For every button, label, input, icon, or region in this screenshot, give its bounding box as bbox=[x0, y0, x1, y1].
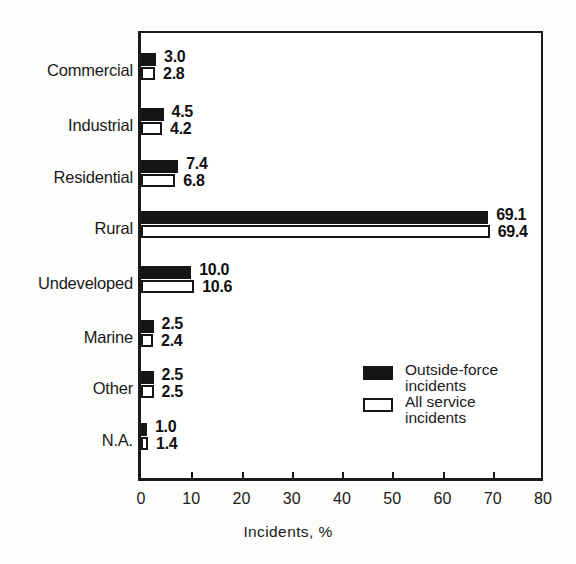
bar-value-other-outside-force: 2.5 bbox=[162, 366, 183, 384]
x-tick-label-70: 70 bbox=[484, 490, 502, 508]
bar-value-marine-all-service: 2.4 bbox=[161, 332, 182, 350]
x-tick-label-30: 30 bbox=[283, 490, 301, 508]
bar-value-undeveloped-all-service: 10.6 bbox=[202, 278, 232, 296]
bar-value-marine-outside-force: 2.5 bbox=[162, 315, 183, 333]
y-axis-category-labels: Commercial Industrial Residential Rural … bbox=[0, 0, 133, 564]
bar-residential-outside-force bbox=[141, 160, 178, 173]
category-label-industrial: Industrial bbox=[5, 116, 133, 135]
category-label-rural: Rural bbox=[5, 219, 133, 238]
x-tick-label-40: 40 bbox=[333, 490, 351, 508]
category-label-commercial: Commercial bbox=[5, 61, 133, 80]
bar-marine-outside-force bbox=[141, 320, 154, 333]
chart-figure: Commercial Industrial Residential Rural … bbox=[0, 0, 576, 564]
x-tick-label-60: 60 bbox=[434, 490, 452, 508]
bar-value-commercial-all-service: 2.8 bbox=[163, 65, 184, 83]
bar-rural-all-service bbox=[141, 225, 490, 238]
category-label-marine: Marine bbox=[5, 328, 133, 347]
x-tick-mark-10 bbox=[191, 472, 193, 481]
x-tick-label-80: 80 bbox=[534, 490, 552, 508]
category-label-other: Other bbox=[5, 379, 133, 398]
bar-industrial-all-service bbox=[141, 122, 162, 135]
x-tick-mark-50 bbox=[392, 472, 394, 481]
bar-other-all-service bbox=[141, 385, 154, 398]
bar-na-all-service bbox=[141, 437, 148, 450]
category-label-residential: Residential bbox=[5, 168, 133, 187]
bar-value-other-all-service: 2.5 bbox=[162, 383, 183, 401]
bar-value-na-all-service: 1.4 bbox=[156, 435, 177, 453]
x-tick-label-10: 10 bbox=[182, 490, 200, 508]
legend-item-outside-force: Outside-force incidents bbox=[363, 362, 538, 394]
bar-value-rural-outside-force: 69.1 bbox=[496, 206, 526, 224]
bar-rural-outside-force bbox=[141, 211, 488, 224]
bar-other-outside-force bbox=[141, 371, 154, 384]
x-tick-label-50: 50 bbox=[383, 490, 401, 508]
bar-residential-all-service bbox=[141, 174, 175, 187]
x-tick-mark-40 bbox=[342, 472, 344, 481]
legend-swatch-open-icon bbox=[363, 398, 393, 412]
x-tick-label-0: 0 bbox=[137, 490, 146, 508]
bar-value-industrial-all-service: 4.2 bbox=[170, 120, 191, 138]
bar-commercial-outside-force bbox=[141, 53, 156, 66]
bar-value-commercial-outside-force: 3.0 bbox=[164, 48, 185, 66]
bar-commercial-all-service bbox=[141, 67, 155, 80]
x-tick-mark-60 bbox=[443, 472, 445, 481]
bar-na-outside-force bbox=[141, 423, 147, 436]
legend-label-outside-force: Outside-force incidents bbox=[405, 362, 498, 394]
x-tick-mark-30 bbox=[292, 472, 294, 481]
x-tick-mark-70 bbox=[493, 472, 495, 481]
x-tick-label-20: 20 bbox=[233, 490, 251, 508]
bar-industrial-outside-force bbox=[141, 108, 164, 121]
legend-label-all-service: All service incidents bbox=[405, 394, 476, 426]
bar-value-industrial-outside-force: 4.5 bbox=[172, 103, 193, 121]
category-label-na: N.A. bbox=[5, 431, 133, 450]
legend-item-all-service: All service incidents bbox=[363, 394, 538, 426]
chart-legend: Outside-force incidents All service inci… bbox=[363, 362, 538, 426]
bar-value-residential-outside-force: 7.4 bbox=[186, 155, 207, 173]
x-axis: 01020304050607080 bbox=[138, 481, 543, 491]
bar-undeveloped-all-service bbox=[141, 280, 194, 293]
bar-marine-all-service bbox=[141, 334, 153, 347]
legend-swatch-filled-icon bbox=[363, 366, 393, 380]
x-tick-mark-20 bbox=[242, 472, 244, 481]
bar-value-na-outside-force: 1.0 bbox=[155, 418, 176, 436]
x-axis-title: Incidents, % bbox=[0, 523, 576, 541]
bar-value-undeveloped-outside-force: 10.0 bbox=[199, 261, 229, 279]
category-label-undeveloped: Undeveloped bbox=[5, 274, 133, 293]
bar-undeveloped-outside-force bbox=[141, 266, 191, 279]
bar-value-residential-all-service: 6.8 bbox=[183, 172, 204, 190]
bar-value-rural-all-service: 69.4 bbox=[498, 223, 528, 241]
